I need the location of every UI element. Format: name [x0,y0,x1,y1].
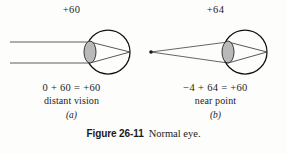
crystalline-lens [84,41,96,63]
panel-b-equation: −4 + 64 = +60 [144,82,287,93]
figure-number: Figure 26-11 [86,128,143,139]
panel-b-subcaption: near point [144,95,287,106]
panel-b-power-label: +64 [144,4,287,15]
figure-panel-a: +60 0 + 60 = +60 distant vision (a) [0,0,143,130]
diverging-ray-lower [151,52,228,63]
diverging-ray-upper [151,42,228,52]
point-object-marker [149,50,153,54]
figure-caption-text: Normal eye. [149,128,201,139]
figure-panel-b: +64 −4 + 64 = +60 near point (b) [144,0,287,130]
figure-caption: Figure 26-11Normal eye. [0,128,287,139]
panel-a-power-label: +60 [0,4,143,15]
panel-b-letter: (b) [144,110,287,120]
panel-b-eye-diagram [144,20,287,82]
panel-a-equation: 0 + 60 = +60 [0,82,143,93]
crystalline-lens [222,41,234,63]
figure-container: +60 0 + 60 = +60 distant vision (a) +64 [0,0,287,154]
panel-a-subcaption: distant vision [0,95,143,106]
panel-a-eye-diagram [0,20,143,82]
panel-a-letter: (a) [0,110,143,120]
